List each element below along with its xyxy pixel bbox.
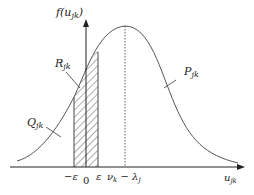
r-jk-label: Rjk <box>54 57 71 71</box>
y-axis-label: f(ujk) <box>55 6 83 20</box>
distribution-diagram: f(ujk) Rjk Qjk Pjk −ε 0 ε νk − λj ujk <box>0 0 254 195</box>
neg-epsilon-tick: −ε <box>64 171 78 182</box>
q-jk-label: Qjk <box>27 116 44 130</box>
bell-curve <box>17 26 238 163</box>
p-jk-label: Pjk <box>183 65 199 79</box>
peak-tick: νk − λj <box>107 171 141 184</box>
epsilon-tick: ε <box>96 171 101 182</box>
x-axis-label: ujk <box>224 172 237 185</box>
q-leader-line <box>46 127 61 137</box>
x-axis <box>10 164 245 170</box>
zero-tick: 0 <box>83 175 89 186</box>
r-leader-line <box>66 72 80 88</box>
